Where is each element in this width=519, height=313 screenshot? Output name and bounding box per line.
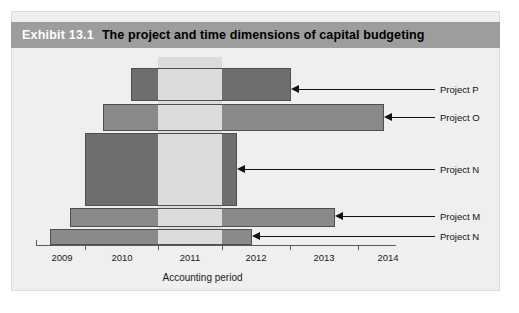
series-label-project-m: Project M — [440, 211, 480, 222]
x-axis-tick — [36, 240, 37, 246]
bar-project-n — [85, 133, 237, 206]
chart-plot-area: 2009 2010 2011 2012 2013 2014 Accounting… — [0, 0, 519, 313]
exhibit-figure: Exhibit 13.1 The project and time dimens… — [0, 0, 519, 313]
leader-line-n — [245, 169, 435, 170]
leader-line-o — [392, 117, 435, 118]
bar-project-o — [103, 104, 384, 131]
bar-segment-light-o — [158, 105, 222, 130]
x-axis-title-text: Accounting period — [162, 272, 242, 283]
x-tick-label-2013: 2013 — [313, 252, 334, 263]
x-tick-label-2009: 2009 — [51, 252, 72, 263]
bar-segment-light-p — [158, 69, 222, 100]
x-axis-line — [36, 245, 396, 246]
leader-line-m — [343, 216, 435, 217]
bar-segment-light-n — [158, 134, 222, 205]
bar-project-n-bottom — [50, 229, 252, 245]
series-label-project-o: Project O — [440, 112, 480, 123]
series-label-project-p: Project P — [440, 84, 479, 95]
leader-arrow-n — [237, 165, 245, 173]
x-axis-tick — [222, 245, 223, 250]
leader-line-n2 — [260, 236, 435, 237]
x-tick-label-2010: 2010 — [111, 252, 132, 263]
x-tick-label-2012: 2012 — [245, 252, 266, 263]
series-label-project-n: Project N — [440, 164, 479, 175]
leader-arrow-o — [384, 113, 392, 121]
bar-segment-light-m — [158, 209, 222, 226]
x-axis-title: Accounting period — [0, 272, 519, 283]
leader-arrow-m — [335, 212, 343, 220]
x-axis-tick — [290, 245, 291, 250]
leader-arrow-p — [291, 85, 299, 93]
x-axis-tick — [85, 245, 86, 250]
leader-line-p — [299, 89, 435, 90]
bar-segment-light-n2 — [158, 230, 222, 244]
bar-project-m — [70, 208, 335, 227]
bar-project-p — [131, 68, 291, 101]
x-axis-tick — [358, 245, 359, 250]
leader-arrow-n2 — [252, 232, 260, 240]
x-tick-label-2014: 2014 — [377, 252, 398, 263]
series-label-project-n-bottom: Project N — [440, 231, 479, 242]
x-axis-tick — [158, 245, 159, 250]
x-tick-label-2011: 2011 — [180, 252, 200, 263]
